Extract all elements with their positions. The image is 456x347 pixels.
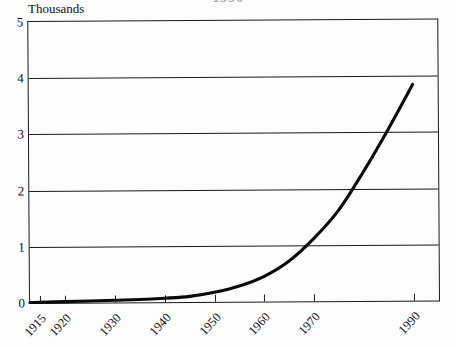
x-tick-1960 <box>264 295 265 302</box>
x-tick-label-1970: 1970 <box>291 310 324 344</box>
x-tick-1915 <box>40 296 41 303</box>
x-tick-label-1950: 1950 <box>191 311 224 345</box>
data-curve <box>28 20 439 303</box>
x-tick-1920 <box>65 296 66 303</box>
x-tick-1970 <box>314 294 315 301</box>
y-tick-label-1: 1 <box>18 240 25 253</box>
x-tick-label-1960: 1960 <box>241 311 274 345</box>
plot-area: 01234519151920193019401950196019701990 <box>27 18 440 304</box>
y-tick-label-4: 4 <box>17 72 24 85</box>
x-tick-label-1920: 1920 <box>41 312 74 346</box>
x-tick-1940 <box>165 295 166 302</box>
x-tick-1990 <box>414 294 415 301</box>
y-tick-label-3: 3 <box>17 128 24 141</box>
x-tick-1950 <box>214 295 215 302</box>
x-tick-label-1915: 1915 <box>16 312 49 346</box>
x-tick-label-1930: 1930 <box>91 312 124 346</box>
x-tick-label-1940: 1940 <box>141 311 174 345</box>
chart-page: 1990 Thousands 0123451915192019301940195… <box>0 0 456 347</box>
y-tick-label-2: 2 <box>18 184 25 197</box>
y-tick-label-0: 0 <box>18 297 25 310</box>
series-count-path <box>29 84 414 302</box>
x-tick-label-1990: 1990 <box>390 310 423 344</box>
y-axis-caption: Thousands <box>28 2 84 16</box>
y-tick-label-5: 5 <box>17 16 24 29</box>
x-tick-1930 <box>115 295 116 302</box>
